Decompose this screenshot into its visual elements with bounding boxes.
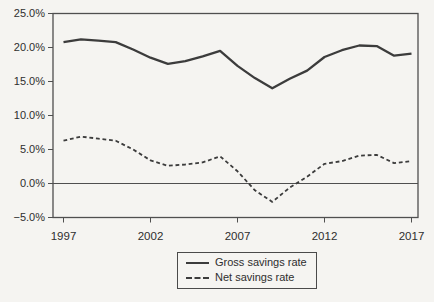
savings-rate-figure: 25.0%20.0%15.0%10.0%5.0%0.0%−5.0%1997200… xyxy=(0,0,434,302)
y-axis-tick-label: 20.0% xyxy=(14,41,45,53)
y-axis-tick-label: −5.0% xyxy=(14,211,46,223)
legend-item-net: Net savings rate xyxy=(186,271,307,284)
y-axis-tick-label: 5.0% xyxy=(20,143,45,155)
gross-savings-line xyxy=(64,39,412,88)
legend-item-gross: Gross savings rate xyxy=(186,256,307,269)
y-axis-tick-label: 10.0% xyxy=(14,109,45,121)
net-savings-line xyxy=(64,137,412,202)
x-axis-tick-label: 2012 xyxy=(312,230,338,242)
chart-legend: Gross savings rate Net savings rate xyxy=(177,252,317,289)
y-axis-tick-label: 25.0% xyxy=(14,7,45,19)
y-axis-tick-label: 0.0% xyxy=(20,177,45,189)
x-axis-tick-label: 1997 xyxy=(51,230,77,242)
x-axis-tick-label: 2002 xyxy=(138,230,164,242)
x-axis-tick-label: 2017 xyxy=(399,230,425,242)
y-axis-tick-label: 15.0% xyxy=(14,75,45,87)
x-axis-tick-label: 2007 xyxy=(225,230,251,242)
gross-line-sample-icon xyxy=(186,262,209,264)
net-line-sample-icon xyxy=(186,277,209,279)
plot-frame xyxy=(53,14,418,218)
legend-label-net: Net savings rate xyxy=(215,271,294,284)
legend-label-gross: Gross savings rate xyxy=(215,256,307,269)
